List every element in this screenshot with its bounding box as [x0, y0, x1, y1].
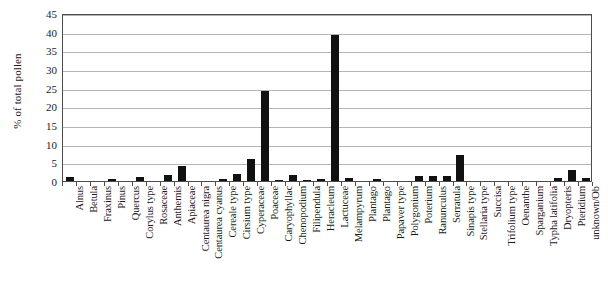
x-axis-category-label: unknown/Ob: [590, 186, 602, 299]
x-axis-category-label: Rosaceae: [158, 186, 170, 299]
bar: [247, 159, 255, 181]
x-axis-category-label: Sparganium: [534, 186, 546, 299]
bar-slot: [426, 15, 440, 181]
bar-slot: [412, 15, 426, 181]
x-axis-category-label: Centaurea cyanus: [213, 186, 225, 299]
bar-slot: [537, 15, 551, 181]
bar-slot: [328, 15, 342, 181]
bar-slot: [495, 15, 509, 181]
y-axis-tick-label: 5: [52, 158, 58, 169]
x-axis-category-label: Cyperaceae: [255, 186, 267, 299]
x-axis-category-label: Oenanthe: [520, 186, 532, 299]
y-axis-tick-labels: 051015202530354045: [34, 14, 60, 182]
bar: [429, 176, 437, 181]
bar: [456, 155, 464, 181]
y-axis-tick-label: 0: [52, 177, 58, 188]
bar-slot: [398, 15, 412, 181]
bar-slot: [370, 15, 384, 181]
bar: [554, 178, 562, 181]
bar-slot: [161, 15, 175, 181]
bar: [331, 35, 339, 181]
x-axis-category-label: Poterium: [423, 186, 435, 299]
bar-slot: [77, 15, 91, 181]
bar-slot: [356, 15, 370, 181]
x-axis-category-label: Centaurea nigra: [200, 186, 212, 299]
x-axis-category-label: Cirsium type: [241, 186, 253, 299]
y-axis-title-text: % of total pollen: [11, 53, 23, 128]
bar-slot: [63, 15, 77, 181]
x-axis-category-label: Trifolium type: [506, 186, 518, 299]
x-axis-category-label: Pinus: [116, 186, 128, 299]
bar-slot: [481, 15, 495, 181]
bar-slot: [565, 15, 579, 181]
bar: [108, 179, 116, 181]
bar: [345, 178, 353, 181]
x-axis-category-label: Lactuceae: [339, 186, 351, 299]
x-axis-category-label: Alnus: [74, 186, 86, 299]
x-axis-category-label: Corylus type: [144, 186, 156, 299]
x-axis-category-label: Stellaria type: [478, 186, 490, 299]
x-axis-category-label: Quercus: [130, 186, 142, 299]
x-axis-category-label: Cereale type: [227, 186, 239, 299]
bar-slot: [147, 15, 161, 181]
bar-slot: [244, 15, 258, 181]
plot-area: [62, 14, 592, 182]
bar: [303, 180, 311, 181]
bar-slot: [216, 15, 230, 181]
bar-slot: [286, 15, 300, 181]
bar-slot: [342, 15, 356, 181]
x-axis-category-label: Filipendula: [311, 186, 323, 299]
x-axis-category-label: Papaver type: [395, 186, 407, 299]
bars-container: [63, 15, 591, 181]
x-axis-category-label: Melampyrum: [353, 186, 365, 299]
x-axis-category-label: Anthemis: [172, 186, 184, 299]
bar: [261, 91, 269, 181]
bar: [373, 179, 381, 181]
x-axis-category-label: Ranunculus: [437, 186, 449, 299]
x-axis-category-label: Fraxinus: [102, 186, 114, 299]
bar-slot: [105, 15, 119, 181]
bar-slot: [523, 15, 537, 181]
pollen-bar-chart: % of total pollen 051015202530354045 Aln…: [0, 0, 608, 299]
bar-slot: [175, 15, 189, 181]
bar-slot: [509, 15, 523, 181]
bar-slot: [91, 15, 105, 181]
bar: [275, 180, 283, 181]
bar: [568, 170, 576, 181]
x-axis-category-label: Typha latifolia: [548, 186, 560, 299]
bar: [415, 176, 423, 181]
y-axis-tick-label: 20: [46, 102, 57, 113]
bar-slot: [189, 15, 203, 181]
y-axis-tick-label: 10: [46, 139, 57, 150]
bar: [219, 179, 227, 181]
bar: [233, 174, 241, 181]
x-axis-category-label: Dryopteris: [562, 186, 574, 299]
y-axis-tick-label: 45: [46, 9, 57, 20]
x-axis-category-label: Succisa: [492, 186, 504, 299]
x-axis-category-label: Pteridium: [576, 186, 588, 299]
y-axis-tick-label: 30: [46, 65, 57, 76]
bar-slot: [300, 15, 314, 181]
bar-slot: [454, 15, 468, 181]
x-axis-category-label: Heracleum: [325, 186, 337, 299]
bar: [66, 177, 74, 181]
bar: [136, 177, 144, 181]
bar: [178, 166, 186, 181]
x-axis-category-label: Sinapis type: [465, 186, 477, 299]
x-axis-category-label: Chenopodium: [297, 186, 309, 299]
y-axis-title: % of total pollen: [0, 0, 34, 182]
x-axis-category-label: Apiaceae: [186, 186, 198, 299]
x-axis-category-label: Plantago: [367, 186, 379, 299]
y-axis-tick-label: 35: [46, 46, 57, 57]
bar-slot: [272, 15, 286, 181]
bar: [164, 175, 172, 181]
x-axis-category-label: Serratula: [451, 186, 463, 299]
x-axis-category-label: Polygonium: [409, 186, 421, 299]
bar-slot: [202, 15, 216, 181]
x-axis-category-label: Plantago: [381, 186, 393, 299]
x-axis-category-label: Betula: [88, 186, 100, 299]
bar-slot: [314, 15, 328, 181]
bar-slot: [119, 15, 133, 181]
y-axis-tick-label: 25: [46, 83, 57, 94]
bar-slot: [133, 15, 147, 181]
